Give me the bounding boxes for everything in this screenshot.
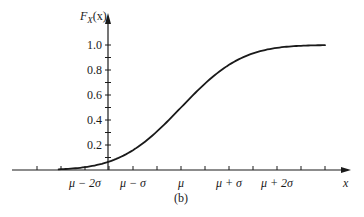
x-tick-label: μ + σ — [215, 176, 243, 190]
y-axis-label: FX(x) — [79, 9, 107, 25]
x-tick-label: μ + 2σ — [260, 176, 294, 190]
axes — [12, 13, 351, 173]
x-axis-arrow-icon — [341, 167, 351, 173]
x-axis-label: x — [342, 176, 349, 190]
y-tick-label: 0.2 — [87, 138, 102, 152]
x-tick-label: μ — [177, 176, 184, 190]
y-tick-label: 0.8 — [87, 63, 102, 77]
y-tick-label: 1.0 — [87, 38, 102, 52]
gaussian-cdf-chart: 0.20.40.60.81.0μ − 2σμ − σμμ + σμ + 2σ F… — [0, 0, 364, 217]
figure-caption: (b) — [174, 191, 188, 205]
x-tick-label: μ − σ — [119, 176, 147, 190]
y-tick-label: 0.4 — [87, 113, 102, 127]
y-tick-label: 0.6 — [87, 88, 102, 102]
x-tick-label: μ − 2σ — [68, 176, 102, 190]
